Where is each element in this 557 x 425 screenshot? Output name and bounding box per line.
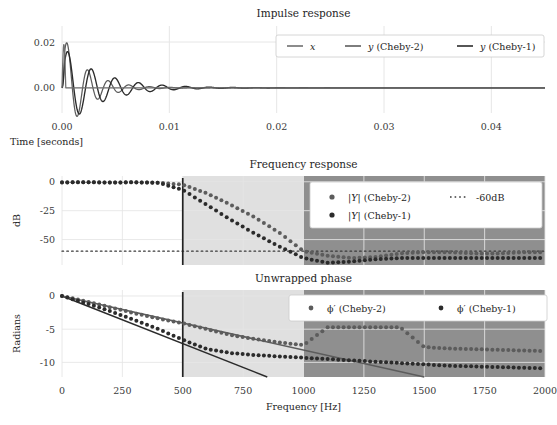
- series-dots-phase-cheby2: [538, 349, 542, 353]
- series-dots-phase-cheby2: [145, 314, 149, 318]
- series-dots-mag-cheby1: [496, 256, 500, 260]
- series-dots-phase-cheby1: [384, 360, 388, 364]
- series-dots-mag-cheby1: [480, 256, 484, 260]
- series-dots-phase-cheby1: [411, 362, 415, 366]
- xtick-label-phase: 1500: [412, 385, 436, 396]
- series-dots-phase-cheby2: [448, 346, 452, 350]
- series-dots-mag-cheby1: [352, 259, 356, 263]
- series-dots-phase-cheby2: [533, 349, 537, 353]
- series-dots-mag-cheby2: [443, 250, 447, 254]
- series-dots-mag-cheby2: [283, 235, 287, 239]
- series-dots-phase-cheby2: [379, 325, 383, 329]
- series-dots-phase-cheby1: [188, 340, 192, 344]
- series-dots-mag-cheby2: [432, 250, 436, 254]
- series-dots-mag-cheby2: [464, 251, 468, 255]
- series-dots-phase-cheby1: [512, 366, 516, 370]
- series-dots-mag-cheby2: [400, 251, 404, 255]
- series-dots-phase-cheby2: [129, 310, 133, 314]
- series-dots-mag-cheby1: [342, 260, 346, 264]
- series-dots-mag-cheby1: [363, 258, 367, 262]
- legend-label-mag-cheby1: |Y| (Cheby-1): [348, 210, 411, 222]
- legend-label-phase-cheby2: ϕ′ (Cheby-2): [327, 303, 386, 314]
- series-dots-mag-cheby1: [416, 256, 420, 260]
- series-dots-mag-cheby2: [320, 253, 324, 257]
- series-dots-phase-cheby2: [166, 318, 170, 322]
- series-dots-mag-cheby1: [315, 259, 319, 263]
- series-dots-mag-cheby2: [219, 198, 223, 202]
- series-dots-phase-cheby2: [108, 305, 112, 309]
- series-dots-phase-cheby2: [161, 317, 165, 321]
- legend-marker-dot: [329, 194, 334, 199]
- series-dots-phase-cheby1: [172, 334, 176, 338]
- series-dots-mag-cheby2: [501, 251, 505, 255]
- series-dots-mag-cheby1: [230, 218, 234, 222]
- series-dots-phase-cheby1: [347, 358, 351, 362]
- series-dots-mag-cheby2: [225, 201, 229, 205]
- ytick-label-phase: 0: [49, 290, 55, 301]
- series-dots-phase-cheby2: [432, 346, 436, 350]
- series-dots-phase-cheby1: [501, 365, 505, 369]
- series-dots-mag-cheby1: [209, 205, 213, 209]
- series-dots-mag-cheby1: [384, 257, 388, 261]
- series-dots-phase-cheby2: [528, 349, 532, 353]
- series-dots-mag-cheby1: [166, 184, 170, 188]
- series-dots-mag-cheby1: [432, 256, 436, 260]
- series-dots-mag-cheby2: [448, 250, 452, 254]
- ytick-label-impulse: 0.00: [34, 82, 55, 93]
- series-dots-mag-cheby2: [288, 239, 292, 243]
- series-dots-phase-cheby1: [246, 352, 250, 356]
- series-dots-phase-cheby1: [278, 354, 282, 358]
- series-dots-phase-cheby1: [166, 331, 170, 335]
- series-dots-phase-cheby1: [235, 352, 239, 356]
- xtick-label-phase: 500: [174, 385, 192, 396]
- series-dots-mag-cheby2: [310, 251, 314, 255]
- series-dots-phase-cheby1: [496, 365, 500, 369]
- series-dots-mag-cheby1: [267, 239, 271, 243]
- series-dots-mag-cheby1: [395, 256, 399, 260]
- series-dots-phase-cheby2: [469, 347, 473, 351]
- series-dots-phase-cheby1: [92, 304, 96, 308]
- series-dots-phase-cheby1: [320, 357, 324, 361]
- series-dots-phase-cheby2: [405, 331, 409, 335]
- series-dots-phase-cheby1: [193, 342, 197, 346]
- series-dots-mag-cheby2: [198, 189, 202, 193]
- series-dots-phase-cheby2: [421, 344, 425, 348]
- series-dots-phase-cheby1: [230, 351, 234, 355]
- series-dots-phase-cheby2: [214, 329, 218, 333]
- series-dots-mag-cheby1: [538, 256, 542, 260]
- series-dots-phase-cheby1: [161, 329, 165, 333]
- series-dots-phase-cheby2: [490, 348, 494, 352]
- series-dots-mag-cheby1: [336, 260, 340, 264]
- series-dots-mag-cheby1: [443, 256, 447, 260]
- series-dots-phase-cheby2: [299, 343, 303, 347]
- series-dots-mag-cheby1: [299, 255, 303, 259]
- series-dots-mag-cheby2: [241, 209, 245, 213]
- series-dots-phase-cheby2: [273, 340, 277, 344]
- series-dots-phase-cheby2: [193, 324, 197, 328]
- xtick-label-phase: 250: [113, 385, 131, 396]
- series-dots-phase-cheby2: [474, 347, 478, 351]
- series-dots-phase-cheby1: [336, 358, 340, 362]
- series-dots-mag-cheby1: [92, 180, 96, 184]
- series-dots-mag-cheby2: [251, 215, 255, 219]
- series-dots-mag-cheby2: [490, 251, 494, 255]
- series-dots-phase-cheby1: [209, 348, 213, 352]
- series-dots-phase-cheby1: [490, 365, 494, 369]
- ytick-label-frequency: -25: [40, 205, 55, 216]
- series-dots-phase-cheby1: [379, 360, 383, 364]
- series-dots-mag-cheby1: [257, 234, 261, 238]
- series-dots-phase-cheby1: [267, 354, 271, 358]
- series-dots-phase-cheby2: [188, 323, 192, 327]
- series-dots-mag-cheby1: [427, 256, 431, 260]
- legend-label-impulse: x: [310, 41, 316, 52]
- series-dots-mag-cheby1: [310, 258, 314, 262]
- series-dots-mag-cheby1: [161, 182, 165, 186]
- series-dots-phase-cheby1: [405, 361, 409, 365]
- series-dots-mag-cheby2: [230, 203, 234, 207]
- series-dots-phase-cheby2: [267, 339, 271, 343]
- series-dots-mag-cheby2: [474, 251, 478, 255]
- series-dots-phase-cheby2: [257, 338, 261, 342]
- series-dots-phase-cheby1: [108, 309, 112, 313]
- series-dots-mag-cheby1: [134, 180, 138, 184]
- series-dots-mag-cheby1: [373, 257, 377, 261]
